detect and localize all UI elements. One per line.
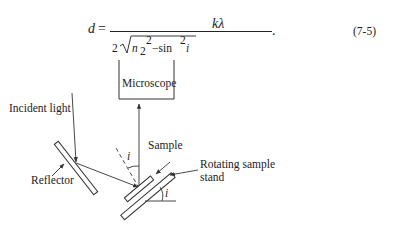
rotating-stand-pointer (170, 170, 198, 175)
angle-i-bottom: i (165, 187, 168, 199)
ellipsometer-diagram: 2 n 2 2 −sin 2 i (7-5) Microscope Incide… (0, 0, 393, 226)
minus-sin: −sin (152, 42, 172, 54)
angle-i-top: i (127, 150, 130, 162)
incident-light-label: Incident light (9, 102, 71, 115)
rotating-stand-label-line2: stand (200, 171, 225, 183)
sample-pointer (156, 162, 170, 174)
i-variable: i (186, 42, 189, 54)
sample-label: Sample (148, 139, 183, 152)
denominator-coefficient: 2 (112, 42, 118, 54)
rotating-stand-label-line1: Rotating sample (200, 158, 275, 171)
incident-light-beam (72, 93, 76, 162)
equation-denominator: 2 n 2 2 −sin 2 i (112, 34, 196, 57)
reflector (54, 141, 97, 195)
n-variable: n (132, 42, 138, 54)
angle-arc-top (128, 166, 139, 168)
microscope-label: Microscope (122, 77, 176, 90)
equation-number: (7-5) (353, 25, 376, 38)
n-subscript: 2 (140, 45, 146, 57)
